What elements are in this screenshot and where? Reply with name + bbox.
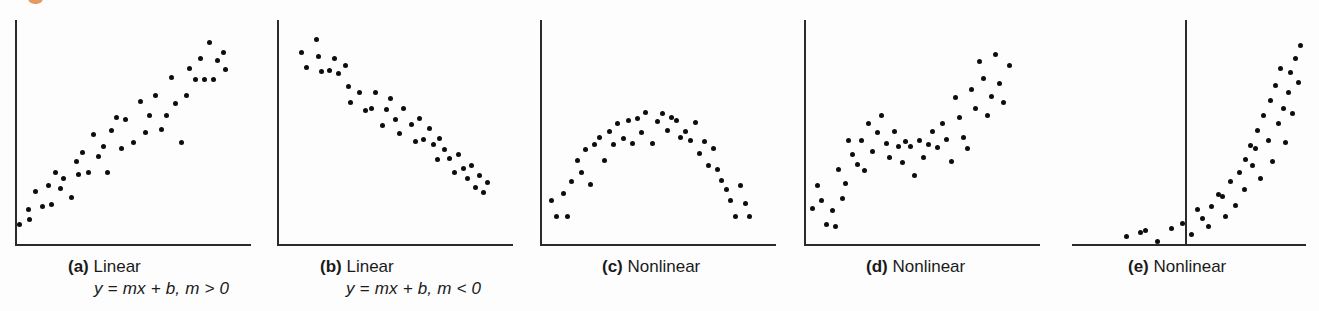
- data-point: [953, 95, 958, 100]
- data-point: [336, 71, 341, 76]
- figure-corner-mark-icon: [28, 0, 43, 4]
- data-point: [1255, 128, 1260, 133]
- data-point: [940, 121, 945, 126]
- data-point: [221, 50, 226, 55]
- data-point: [602, 158, 607, 163]
- data-point: [993, 52, 998, 57]
- data-point: [373, 90, 378, 95]
- data-point: [469, 163, 474, 168]
- data-point: [1293, 56, 1298, 61]
- data-point: [363, 108, 368, 113]
- panel-title-c: Nonlinear: [628, 257, 701, 276]
- panel-tag-a: (a): [68, 257, 89, 276]
- data-point: [138, 99, 143, 104]
- panel-caption-e: (e) Nonlinear: [1128, 256, 1226, 278]
- figure-container: (a) Lineary = mx + b, m > 0(b) Lineary =…: [0, 0, 1319, 311]
- data-point: [733, 214, 738, 219]
- data-point: [447, 156, 452, 161]
- data-point: [109, 128, 114, 133]
- data-point: [875, 130, 880, 135]
- data-point: [836, 167, 841, 172]
- data-point: [380, 123, 385, 128]
- data-point: [715, 167, 720, 172]
- data-point: [1286, 90, 1291, 95]
- data-point: [678, 135, 683, 140]
- data-point: [1276, 121, 1281, 126]
- y-axis-a: [15, 20, 17, 244]
- data-point: [1124, 234, 1129, 239]
- data-point: [435, 157, 440, 162]
- data-point: [1266, 138, 1271, 143]
- data-point: [969, 87, 974, 92]
- panel-tag-e: (e): [1128, 257, 1149, 276]
- data-point: [1270, 159, 1275, 164]
- data-point: [1189, 232, 1194, 237]
- plot-area-c: [540, 20, 776, 244]
- data-point: [697, 151, 702, 156]
- data-point: [977, 59, 982, 64]
- data-point: [1138, 230, 1143, 235]
- data-point: [1223, 214, 1228, 219]
- data-point: [887, 155, 892, 160]
- data-point: [369, 106, 374, 111]
- panel-equation-b: y = mx + b, m < 0: [320, 278, 481, 300]
- x-axis-a: [15, 244, 251, 246]
- data-point: [319, 69, 324, 74]
- data-point: [1200, 216, 1205, 221]
- data-point: [738, 183, 743, 188]
- data-point: [61, 176, 66, 181]
- data-point: [859, 138, 864, 143]
- data-point: [417, 116, 422, 121]
- data-point: [346, 84, 351, 89]
- data-point: [27, 217, 32, 222]
- data-point: [1180, 221, 1185, 226]
- data-point: [131, 140, 136, 145]
- data-point: [33, 189, 38, 194]
- data-point: [846, 138, 851, 143]
- data-point: [674, 118, 679, 123]
- data-point: [819, 198, 824, 203]
- data-point: [343, 63, 348, 68]
- data-point: [147, 113, 152, 118]
- data-point: [223, 67, 228, 72]
- data-point: [461, 166, 466, 171]
- data-point: [1206, 224, 1211, 229]
- data-point: [384, 107, 389, 112]
- panel-tag-c: (c): [602, 257, 623, 276]
- data-point: [40, 204, 45, 209]
- data-point: [949, 159, 954, 164]
- data-point: [96, 154, 101, 159]
- data-point: [80, 150, 85, 155]
- data-point: [1237, 170, 1242, 175]
- data-point: [1248, 143, 1253, 148]
- data-point: [561, 191, 566, 196]
- y-axis-e: [1185, 20, 1187, 244]
- data-point: [935, 145, 940, 150]
- panel-title-d: Nonlinear: [892, 257, 965, 276]
- data-point: [554, 214, 559, 219]
- data-point: [442, 147, 447, 152]
- data-point: [830, 208, 835, 213]
- data-point: [965, 146, 970, 151]
- data-point: [862, 168, 867, 173]
- data-point: [173, 101, 178, 106]
- data-point: [855, 162, 860, 167]
- panel-equation-a: y = mx + b, m > 0: [68, 278, 229, 300]
- data-point: [961, 135, 966, 140]
- data-point: [105, 170, 110, 175]
- panel-title-e: Nonlinear: [1154, 257, 1227, 276]
- data-point: [643, 110, 648, 115]
- data-point: [456, 152, 461, 157]
- panel-caption-c: (c) Nonlinear: [602, 256, 700, 278]
- data-point: [1228, 179, 1233, 184]
- panel-title-b: Linear: [346, 257, 393, 276]
- panel-caption-d: (d) Nonlinear: [866, 256, 965, 278]
- data-point: [824, 222, 829, 227]
- data-point: [903, 139, 908, 144]
- data-point: [565, 214, 570, 219]
- data-point: [332, 56, 337, 61]
- data-point: [583, 147, 588, 152]
- data-point: [1250, 163, 1255, 168]
- x-axis-d: [804, 244, 1040, 246]
- data-point: [1007, 63, 1012, 68]
